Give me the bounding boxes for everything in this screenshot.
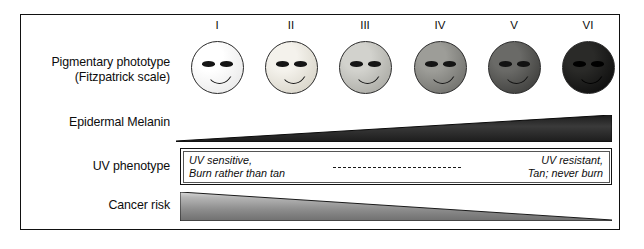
face-eye-right (220, 61, 233, 67)
epidermal-melanin-wedge (176, 115, 612, 142)
face-mouth-smile (354, 69, 381, 84)
phototype-face-iii (339, 41, 392, 94)
face-eye-right (517, 61, 530, 67)
row-label-uv-phenotype: UV phenotype (20, 159, 170, 174)
face-eye-right (443, 61, 456, 67)
face-mouth-smile (429, 69, 456, 84)
phototype-numeral-ii: II (271, 19, 311, 31)
phototype-numeral-v: V (494, 19, 534, 31)
phototype-numeral-iii: III (345, 19, 385, 31)
face-eye-right (368, 61, 381, 67)
figure-root: Pigmentary phototype (Fitzpatrick scale)… (0, 0, 644, 249)
uv-phenotype-box: UV sensitive, Burn rather than tan UV re… (180, 148, 612, 185)
phototype-numeral-vi: VI (568, 19, 608, 31)
face-eye-left (425, 61, 438, 67)
phototype-face-iv (414, 41, 467, 94)
face-eye-left (350, 61, 363, 67)
face-eye-right (294, 61, 307, 67)
uv-gradient-dashed-line (333, 167, 461, 168)
phototype-face-i (191, 41, 244, 94)
phototype-numeral-iv: IV (420, 19, 460, 31)
face-eye-left (202, 61, 215, 67)
row-label-cancer-risk: Cancer risk (20, 198, 170, 213)
phototype-numeral-i: I (197, 19, 237, 31)
face-eye-left (276, 61, 289, 67)
uv-resistant-text: UV resistant, Tan; never burn (528, 154, 603, 180)
face-mouth-smile (206, 69, 233, 84)
uv-sensitive-text: UV sensitive, Burn rather than tan (189, 154, 285, 180)
face-mouth-smile (280, 69, 307, 84)
face-eye-left (573, 61, 586, 67)
phototype-face-ii (265, 41, 318, 94)
face-mouth-smile (577, 69, 604, 84)
face-mouth-smile (503, 69, 530, 84)
phototype-face-vi (562, 41, 615, 94)
row-label-epidermal-melanin: Epidermal Melanin (20, 115, 170, 130)
face-eye-right (591, 61, 604, 67)
cancer-risk-wedge (180, 192, 612, 221)
row-label-phototype: Pigmentary phototype (Fitzpatrick scale) (20, 55, 170, 84)
face-eye-left (499, 61, 512, 67)
phototype-face-v (488, 41, 541, 94)
